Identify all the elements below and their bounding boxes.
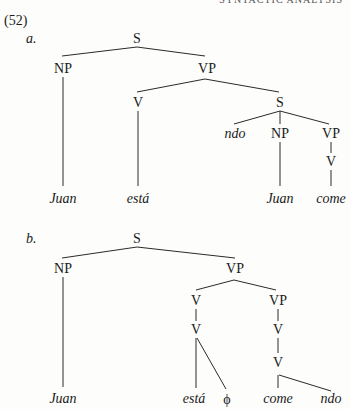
node-vp-inner: VP — [269, 293, 287, 308]
edge — [279, 375, 331, 391]
node-np-embedded: NP — [271, 126, 289, 141]
edge — [205, 79, 279, 92]
leaf-esta: está — [183, 391, 206, 406]
node-ndo: ndo — [225, 126, 246, 141]
node-vp: VP — [226, 261, 244, 276]
node-v: V — [191, 293, 201, 308]
leaf-esta: está — [127, 191, 150, 206]
leaf-juan-embedded: Juan — [266, 191, 293, 206]
node-v2: V — [273, 322, 283, 337]
example-number: (52) — [4, 13, 28, 29]
leaf-come: come — [263, 391, 293, 406]
syntax-trees: (52) a. S NP VP V S ndo NP VP V — [0, 0, 351, 409]
node-s: S — [133, 231, 141, 246]
leaf-phi: ϕ — [223, 392, 230, 407]
edge — [137, 79, 205, 92]
node-s: S — [133, 31, 141, 46]
node-np: NP — [54, 261, 72, 276]
edge — [234, 111, 280, 124]
edge — [137, 47, 205, 56]
node-vp: VP — [198, 61, 216, 76]
edge — [197, 338, 226, 389]
tree-a-label: a. — [26, 31, 37, 46]
leaf-ndo: ndo — [321, 391, 342, 406]
node-v: V — [133, 95, 143, 110]
edge — [137, 247, 235, 258]
tree-a: a. S NP VP V S ndo NP VP V Juan está — [26, 31, 346, 206]
edge — [234, 280, 276, 290]
node-v3: V — [273, 355, 283, 370]
leaf-juan: Juan — [49, 391, 76, 406]
edge — [196, 280, 234, 290]
node-s-embedded: S — [276, 95, 284, 110]
leaf-come: come — [316, 191, 346, 206]
edge — [280, 111, 329, 124]
tree-b-label: b. — [26, 231, 37, 246]
book-page: SYNTACTIC ANALYSIS (52) a. S NP VP V S n… — [0, 0, 351, 409]
edge — [62, 247, 137, 258]
edge — [62, 47, 137, 56]
node-v-embedded: V — [326, 154, 336, 169]
node-vp-embedded: VP — [322, 126, 340, 141]
tree-b: b. S NP VP V VP V V V Juan está ϕ — [26, 231, 342, 407]
leaf-juan: Juan — [49, 191, 76, 206]
node-np: NP — [54, 61, 72, 76]
node-v-inner: V — [191, 322, 201, 337]
